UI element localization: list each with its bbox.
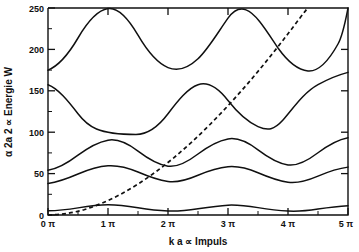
band-structure-chart: 0 π 1 π 2 π 3 π 4 π 5 π 0 50 100 150 200… [0, 0, 359, 252]
x-axis-title: k a ∝ Impuls [169, 236, 228, 247]
y-tick-label-100: 100 [29, 128, 44, 138]
band-curve-4 [48, 72, 348, 134]
chart-page: 0 π 1 π 2 π 3 π 4 π 5 π 0 50 100 150 200… [0, 0, 359, 252]
x-tick-label-5: 5 π [339, 219, 354, 229]
y-tick-label-250: 250 [29, 4, 44, 14]
y-tick-label-50: 50 [34, 169, 44, 179]
x-tick-label-1: 1 π [101, 219, 116, 229]
x-tick-label-3: 3 π [221, 219, 236, 229]
y-tick-label-200: 200 [29, 45, 44, 55]
y-axis-title: α 2a 2 ∝ Energie W [3, 67, 14, 157]
y-tick-label-0: 0 [39, 211, 44, 221]
x-axis-ticks-top [108, 8, 288, 15]
y-tick-labels: 0 50 100 150 200 250 [29, 4, 44, 221]
x-tick-label-2: 2 π [161, 219, 176, 229]
x-tick-label-4: 4 π [281, 219, 296, 229]
y-tick-label-150: 150 [29, 86, 44, 96]
band-curve-3 [48, 138, 348, 171]
y-axis-ticks-right [341, 49, 348, 173]
x-tick-label-0: 0 π [41, 219, 56, 229]
free-electron-parabola [48, 8, 308, 215]
x-tick-labels: 0 π 1 π 2 π 3 π 4 π 5 π [41, 219, 354, 229]
plot-frame [48, 8, 348, 215]
band-curve-1 [48, 205, 348, 211]
band-curve-5 [48, 8, 348, 71]
band-curve-2 [48, 166, 348, 184]
